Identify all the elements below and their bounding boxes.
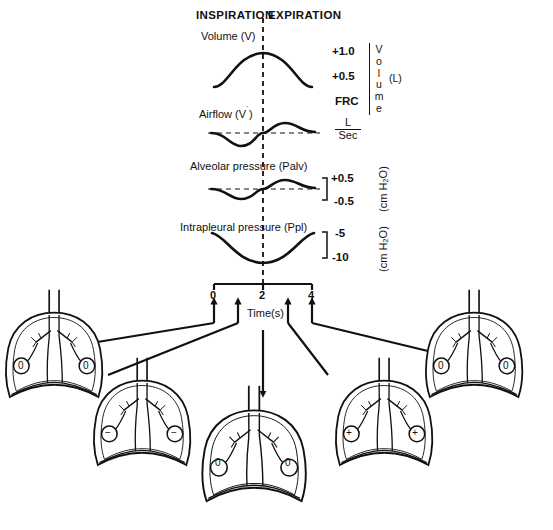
airflow-panel-label: Airflow (V˙) <box>199 106 253 120</box>
lung-5-alveolus-right-symbol: 0 <box>503 361 509 371</box>
lung-1-alveolus-left-symbol: 0 <box>18 361 24 371</box>
inspiration-header: INSPIRATION <box>196 10 274 22</box>
volume-tick-3: FRC <box>335 96 359 108</box>
airflow-unit: L Sec <box>335 117 361 141</box>
volume-unit-letter-5: m <box>375 91 384 103</box>
lung-mid-expiration <box>336 358 433 465</box>
time-tick-4: 4 <box>308 290 314 301</box>
expiration-header: EXPIRATION <box>268 10 341 22</box>
intrapleural-pressure-tick-2: -10 <box>332 252 349 264</box>
lung-3-alveolus-right-symbol: 0 <box>285 458 291 468</box>
alveolar-pressure-unit: (cm H₂O) <box>377 166 389 212</box>
lung-4-alveolus-right-symbol: + <box>412 428 418 438</box>
lung-end-expiration <box>426 290 523 397</box>
lung-5-alveolus-left-symbol: 0 <box>438 361 444 371</box>
intrapleural-pressure-tick-1: -5 <box>335 228 345 240</box>
lung-4-alveolus-left-symbol: + <box>346 428 352 438</box>
intrapleural-pressure-bracket <box>322 232 327 258</box>
lung-3-alveolus-left-symbol: 0 <box>215 458 221 468</box>
time-axis-label: Time(s) <box>247 308 284 319</box>
respiratory-cycle-figure: INSPIRATION EXPIRATION Volume (V) +1.0 +… <box>0 0 553 530</box>
volume-unit-letter-6: e <box>376 103 382 115</box>
alveolar-pressure-tick-2: -0.5 <box>334 196 354 208</box>
alveolar-pressure-bracket <box>322 178 327 200</box>
volume-tick-2: +0.5 <box>332 71 355 83</box>
volume-panel-label: Volume (V) <box>201 31 255 42</box>
alveolar-pressure-tick-1: +0.5 <box>331 173 354 185</box>
lung-2-alveolus-left-symbol: − <box>105 428 111 438</box>
intrapleural-pressure-unit: (cm H₂O) <box>377 226 389 272</box>
lung-start-inspiration <box>6 290 103 397</box>
intrapleural-pressure-panel-label: Intrapleural pressure (Ppl) <box>180 222 307 233</box>
volume-tick-1: +1.0 <box>332 46 355 58</box>
volume-unit-letter-2: o <box>376 56 382 68</box>
lung-1-alveolus-right-symbol: 0 <box>83 361 89 371</box>
volume-unit-letter-1: V <box>375 44 382 56</box>
airflow-unit-denominator: Sec <box>335 129 361 142</box>
alveolar-pressure-panel-label: Alveolar pressure (Palv) <box>190 161 307 172</box>
figure-artwork <box>0 0 553 530</box>
airflow-unit-numerator: L <box>335 117 361 129</box>
lung-2-alveolus-right-symbol: − <box>171 428 177 438</box>
time-tick-0: 0 <box>210 290 216 301</box>
lung-end-inspiration <box>202 386 306 501</box>
time-tick-2: 2 <box>259 290 265 301</box>
volume-unit-paren: (L) <box>389 73 402 84</box>
volume-axis-rule <box>369 43 370 115</box>
volume-unit-stack: V o l u m e <box>372 44 386 115</box>
